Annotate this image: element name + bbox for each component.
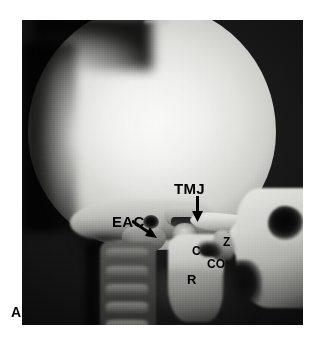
neck-soft-tissue-region bbox=[152, 270, 272, 325]
vertebra-segment bbox=[106, 284, 148, 296]
cranial-vault-highlight bbox=[66, 54, 234, 204]
film-edge-artifact bbox=[144, 20, 170, 25]
sigmoid-notch-region bbox=[198, 235, 224, 257]
figure-panel: TMJ EAC C Z CO R A bbox=[0, 0, 320, 344]
occipital-edge-shadow bbox=[22, 42, 76, 232]
cervical-spine-region bbox=[100, 242, 156, 325]
orbit-region bbox=[268, 206, 303, 240]
radiograph-image: TMJ EAC C Z CO R bbox=[22, 20, 303, 325]
vertebra-segment bbox=[106, 320, 148, 325]
figure-panel-label: A bbox=[11, 305, 21, 319]
vertex-edge-shadow bbox=[32, 20, 152, 70]
external-auditory-canal-region bbox=[143, 215, 159, 229]
vertebra-segment bbox=[106, 266, 148, 278]
vertebra-segment bbox=[106, 302, 148, 314]
vertebra-segment bbox=[106, 248, 148, 260]
